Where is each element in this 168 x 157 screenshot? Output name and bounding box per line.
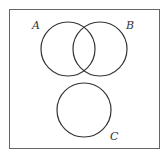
label-b: B [125,19,134,32]
venn-diagram: A B C [0,0,168,157]
label-c: C [110,130,119,143]
label-a: A [31,19,40,32]
